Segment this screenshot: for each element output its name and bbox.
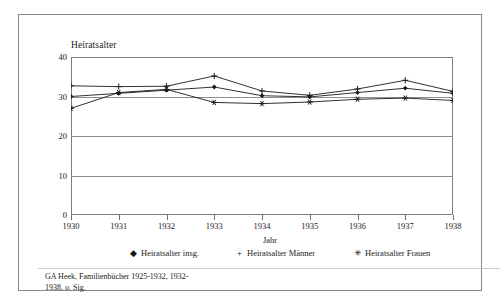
data-point-diamond-marker	[212, 85, 217, 90]
legend-item: ◆Heiratsalter insg.	[129, 248, 199, 258]
x-axis-tick-mark	[262, 215, 263, 220]
data-point-star-marker	[71, 106, 74, 111]
x-axis-tick-mark	[71, 215, 72, 220]
x-axis-tick-mark	[214, 215, 215, 220]
figure-frame: Heiratsalter 010203040 19301931193219331…	[18, 14, 482, 291]
x-axis-tick-mark	[119, 215, 120, 220]
data-point-plus-marker	[116, 84, 122, 90]
y-axis-tick-label: 10	[41, 171, 67, 181]
y-axis-tick-label: 20	[41, 131, 67, 141]
data-point-diamond-marker	[403, 86, 408, 91]
data-point-star-marker	[355, 97, 361, 102]
chart-legend: ◆Heiratsalter insg.+Heiratsalter Männer✳…	[71, 248, 471, 262]
caption-divider	[38, 268, 500, 269]
x-axis-tick-label: 1933	[206, 221, 223, 231]
x-axis-tick-label: 1930	[63, 221, 80, 231]
data-point-star-marker	[307, 99, 313, 104]
chart-data-layer	[71, 57, 453, 215]
y-axis-tick-label: 0	[41, 210, 67, 220]
legend-label: Heiratsalter Frauen	[365, 248, 430, 258]
x-axis-tick-mark	[405, 215, 406, 220]
data-point-star-marker	[211, 100, 217, 105]
source-note-line-1: GA Heek, Familienbücher 1925-1932, 1932-	[45, 272, 345, 283]
legend-diamond-icon: ◆	[129, 249, 138, 258]
x-axis-tick-label: 1931	[110, 221, 127, 231]
x-axis-tick-label: 1934	[254, 221, 271, 231]
x-axis-tick-label: 1936	[349, 221, 366, 231]
x-axis-tick-label: 1932	[158, 221, 175, 231]
legend-item: ✳Heiratsalter Frauen	[353, 248, 430, 258]
data-point-plus-marker	[211, 73, 217, 79]
data-point-plus-marker	[402, 77, 408, 83]
data-point-star-marker	[450, 98, 453, 103]
y-axis-tick-labels: 010203040	[37, 57, 67, 215]
source-note-line-2: 1938, o. Sig.	[45, 283, 345, 294]
figure-page: Heiratsalter 010203040 19301931193219331…	[0, 0, 502, 305]
legend-star-icon: ✳	[353, 249, 362, 258]
legend-plus-icon: +	[235, 249, 244, 258]
data-point-plus-marker	[71, 83, 74, 89]
chart-title: Heiratsalter	[71, 40, 117, 50]
legend-label: Heiratsalter insg.	[141, 248, 199, 258]
data-point-star-marker	[402, 95, 408, 100]
x-axis-tick-labels: 193019311932193319341935193619371938	[71, 221, 453, 235]
data-point-plus-marker	[259, 88, 265, 94]
x-axis-title: Jahr	[19, 235, 502, 245]
x-axis-tick-label: 1937	[397, 221, 414, 231]
data-point-star-marker	[259, 101, 265, 106]
source-note: GA Heek, Familienbücher 1925-1932, 1932-…	[45, 272, 345, 293]
legend-label: Heiratsalter Männer	[247, 248, 315, 258]
x-axis-tick-label: 1935	[301, 221, 318, 231]
x-axis-tick-mark	[167, 215, 168, 220]
x-axis-tick-mark	[310, 215, 311, 220]
data-point-diamond-marker	[71, 94, 73, 99]
data-point-plus-marker	[307, 92, 313, 98]
legend-item: +Heiratsalter Männer	[235, 248, 315, 258]
x-axis-tick-mark	[453, 215, 454, 220]
y-axis-tick-label: 40	[41, 52, 67, 62]
x-axis-tick-mark	[358, 215, 359, 220]
y-axis-tick-label: 30	[41, 92, 67, 102]
data-point-plus-marker	[354, 86, 360, 92]
x-axis-tick-label: 1938	[445, 221, 462, 231]
